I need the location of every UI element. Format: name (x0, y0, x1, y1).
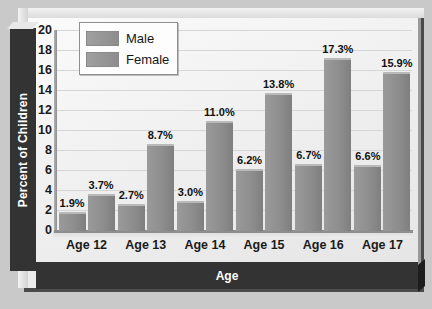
x-axis-tick-label: Age 14 (184, 238, 225, 252)
y-axis-tick-label: 8 (30, 143, 52, 157)
x-axis-tick-label: Age 17 (362, 238, 403, 252)
x-axis-tick-label: Age 13 (125, 238, 166, 252)
y-axis-tick-label: 4 (30, 183, 52, 197)
y-axis-ticks: 02468101214161820 (28, 30, 52, 231)
y-axis-tick-label: 0 (30, 223, 52, 237)
y-axis-tick-label: 2 (30, 203, 52, 217)
x-axis-tick-label: Age 12 (66, 238, 107, 252)
y-axis-tick-label: 18 (30, 43, 52, 57)
legend-item-male: Male (86, 28, 171, 49)
legend-label-male: Male (126, 31, 154, 46)
y-axis-tick-label: 12 (30, 103, 52, 117)
y-axis-tick-label: 14 (30, 83, 52, 97)
legend-swatch-female (86, 52, 119, 67)
x-axis-tick-label: Age 16 (303, 238, 344, 252)
chart-legend: Male Female (79, 22, 178, 75)
y-axis-tick-label: 10 (30, 123, 52, 137)
y-axis-tick-label: 6 (30, 163, 52, 177)
x-axis-title: Age (36, 262, 418, 289)
chart-root: Percent of Children 02468101214161820 1.… (0, 0, 432, 309)
legend-label-female: Female (126, 52, 169, 67)
y-axis-tick-label: 16 (30, 63, 52, 77)
x-axis-title-band: Age (36, 262, 418, 289)
y-axis-tick-label: 20 (30, 23, 52, 37)
legend-swatch-male (86, 31, 119, 46)
x-axis-tick-label: Age 15 (244, 238, 285, 252)
legend-item-female: Female (86, 49, 171, 70)
